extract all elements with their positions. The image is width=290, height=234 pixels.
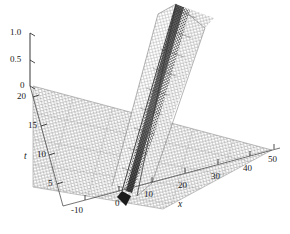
x-tick-label-30: 30 — [211, 172, 220, 181]
x-tick-label-40: 40 — [243, 164, 252, 173]
z-tick-label-1.0: 1.0 — [10, 28, 21, 37]
t-tick-label-10: 10 — [37, 150, 46, 159]
figure-3d-soliton-surface-plot: 1.0 0.5 0 20 15 10 5 t -10 0 10 20 30 40… — [0, 0, 290, 234]
t-tick-label-20: 20 — [17, 92, 26, 101]
z-tick-label-0: 0 — [20, 81, 25, 90]
x-tick-label--10: -10 — [71, 206, 83, 215]
x-tick-label-50: 50 — [268, 155, 277, 164]
t-tick-label-5: 5 — [48, 179, 53, 188]
x-axis-title: x — [178, 200, 182, 210]
x-tick-label-10: 10 — [144, 190, 153, 199]
z-axis — [30, 33, 35, 89]
t-tick-label-15: 15 — [28, 121, 37, 130]
x-tick-label-20: 20 — [178, 181, 187, 190]
t-axis-title: t — [24, 152, 27, 162]
x-tick-label-0: 0 — [115, 199, 120, 208]
z-tick-label-0.5: 0.5 — [10, 55, 21, 64]
